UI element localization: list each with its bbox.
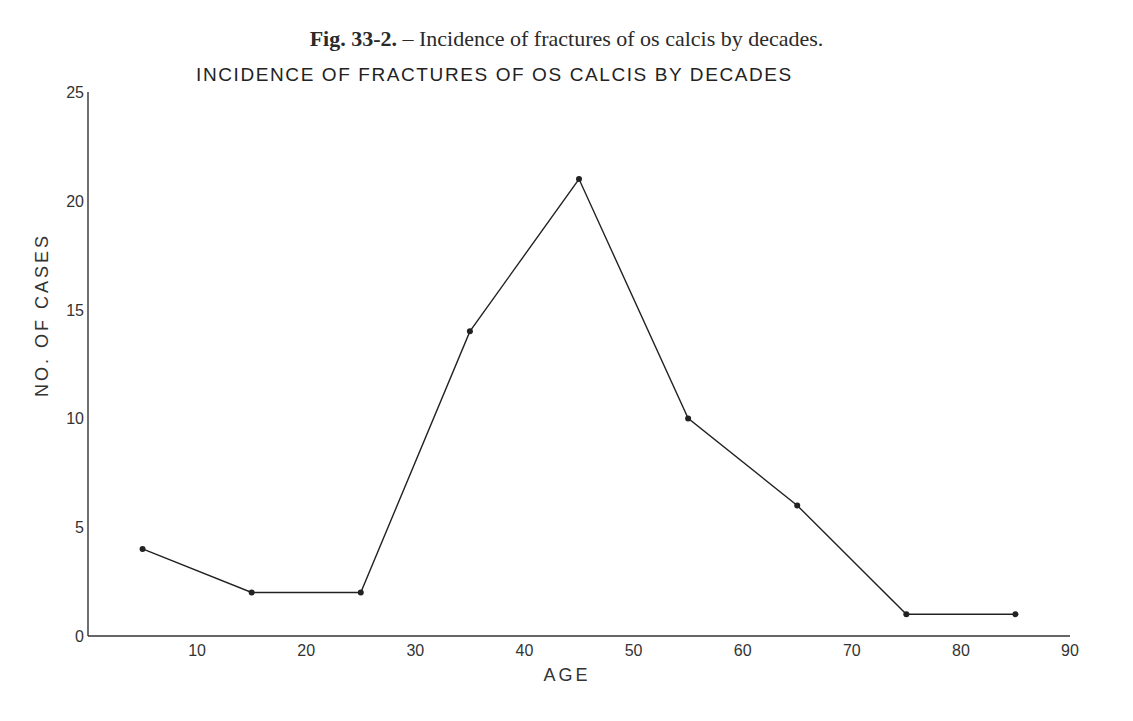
x-axis-label: AGE — [543, 665, 590, 685]
data-point — [794, 502, 800, 508]
y-axis-label: NO. OF CASES — [32, 233, 52, 397]
x-tick-label: 10 — [188, 642, 206, 659]
data-point — [140, 546, 146, 552]
series-line — [143, 179, 1016, 614]
data-point — [249, 589, 255, 595]
y-tick-label: 15 — [66, 302, 84, 319]
x-tick-label: 80 — [952, 642, 970, 659]
axis-ticks: 1020304050607080900510152025 — [66, 84, 1079, 659]
x-tick-label: 90 — [1061, 642, 1079, 659]
data-point — [467, 328, 473, 334]
data-series — [140, 176, 1019, 617]
y-tick-label: 0 — [75, 628, 84, 645]
chart-axes — [88, 92, 1070, 636]
x-tick-label: 50 — [625, 642, 643, 659]
data-point — [1012, 611, 1018, 617]
x-tick-label: 20 — [297, 642, 315, 659]
x-tick-label: 60 — [734, 642, 752, 659]
y-tick-label: 10 — [66, 410, 84, 427]
data-point — [685, 415, 691, 421]
y-tick-label: 5 — [75, 519, 84, 536]
line-chart: 1020304050607080900510152025 AGE NO. OF … — [0, 0, 1133, 721]
x-tick-label: 40 — [516, 642, 534, 659]
x-tick-label: 70 — [843, 642, 861, 659]
data-point — [903, 611, 909, 617]
y-tick-label: 20 — [66, 193, 84, 210]
data-point — [576, 176, 582, 182]
x-tick-label: 30 — [406, 642, 424, 659]
data-point — [358, 589, 364, 595]
y-tick-label: 25 — [66, 84, 84, 101]
